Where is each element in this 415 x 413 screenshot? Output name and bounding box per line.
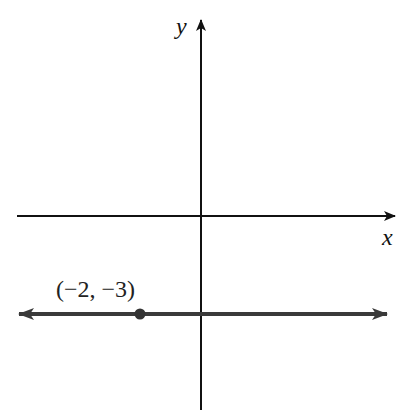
x-axis-label: x [381,224,393,250]
y-axis-label: y [174,13,187,39]
data-point [135,309,146,320]
point-label: (−2, −3) [56,276,135,302]
coordinate-plane: y x (−2, −3) [0,0,415,413]
